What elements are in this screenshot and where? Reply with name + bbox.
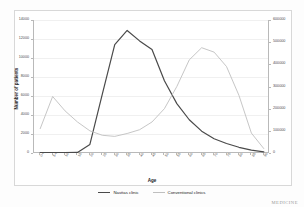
legend-swatch-conventional (153, 192, 165, 193)
y-axis-tick-right: 0 (273, 151, 303, 155)
legend-label-conventional: Conventional clinics (168, 190, 206, 195)
y-axis-tick-right: 300000 (273, 85, 303, 89)
y-axis-tick-left: 10000 (1, 56, 29, 60)
y-axis-tickmark-left (31, 153, 33, 154)
y-axis-tick-right: 100000 (273, 129, 303, 133)
series-line-navitas-clinic (40, 30, 264, 152)
y-axis-tick-left: 6000 (1, 94, 29, 98)
legend-swatch-navitas (98, 192, 110, 193)
y-axis-tick-left: 12000 (1, 37, 29, 41)
legend-item-conventional: Conventional clinics (153, 190, 206, 195)
chart-legend: Navitas clinic Conventional clinics (0, 190, 304, 195)
chart-lines (34, 20, 270, 153)
y-axis-tick-left: 2000 (1, 132, 29, 136)
y-axis-tick-right: 200000 (273, 107, 303, 111)
y-axis-tick-left: 0 (1, 151, 29, 155)
y-axis-tick-left: 8000 (1, 75, 29, 79)
y-axis-tick-left: 14000 (1, 18, 29, 22)
figure-root: Number of patients 020004000600080001000… (0, 0, 304, 207)
y-axis-tick-right: 400000 (273, 62, 303, 66)
legend-label-navitas: Navitas clinic (113, 190, 138, 195)
y-axis-label-left: Number of patients (14, 68, 19, 110)
legend-item-navitas: Navitas clinic (98, 190, 138, 195)
y-axis-tick-right: 500000 (273, 40, 303, 44)
y-axis-tick-left: 4000 (1, 113, 29, 117)
plot-area (33, 20, 269, 153)
series-line-conventional-clinics (40, 48, 264, 149)
x-axis-label: Age (0, 178, 304, 183)
y-axis-tick-right: 600000 (273, 18, 303, 22)
medicine-watermark: MEDICINE (272, 200, 298, 205)
